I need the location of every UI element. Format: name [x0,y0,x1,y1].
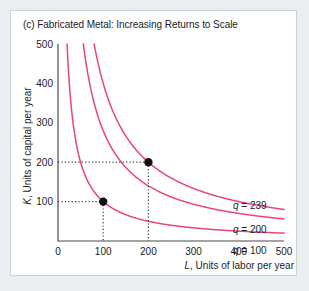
y-tick-label: 400 [36,78,53,89]
x-tick-label: 500 [276,246,293,257]
y-axis-tick-labels: 100200300400500 [36,39,53,208]
axis-lines [58,44,284,241]
y-axis-title: K, Units of capital per year [22,87,33,205]
figure-panel: (c) Fabricated Metal: Increasing Returns… [10,10,297,276]
x-tick-label: 300 [185,246,202,257]
curve-label: q = 200 [233,224,267,235]
isoquant-curve [94,44,284,209]
y-tick-label: 300 [36,117,53,128]
y-tick-label: 500 [36,39,53,50]
y-tick-label: 200 [36,157,53,168]
x-tick-label: 0 [55,246,61,257]
y-tick-label: 100 [36,196,53,207]
data-point [99,197,107,205]
curve-label: q = 239 [233,200,267,211]
isoquant-curve [83,44,284,219]
curve-labels: q = 239q = 200q = 100 [233,200,267,256]
curve-label: q = 100 [233,245,267,256]
x-axis-title: L, Units of labor per year [185,260,295,271]
x-tick-label: 200 [140,246,157,257]
annotated-data-points [99,158,153,206]
isoquant-chart: 0100200300400500 100200300400500 q = 239… [11,11,298,277]
data-point [144,158,152,166]
x-tick-label: 100 [95,246,112,257]
